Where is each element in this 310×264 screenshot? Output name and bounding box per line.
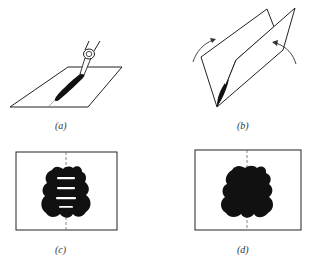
ink-blot bbox=[221, 166, 273, 218]
ink-blot bbox=[41, 166, 90, 217]
panel-d bbox=[195, 150, 301, 230]
panel-a bbox=[10, 41, 122, 107]
panel-label-b: (b) bbox=[237, 120, 249, 131]
panel-label-d: (d) bbox=[237, 244, 249, 255]
ink-blot-figure: (a) (b) (c) (d) bbox=[0, 0, 310, 264]
panel-c bbox=[16, 152, 117, 230]
panel-label-a: (a) bbox=[55, 120, 67, 131]
panel-label-c: (c) bbox=[55, 244, 66, 255]
panel-b bbox=[193, 8, 296, 107]
